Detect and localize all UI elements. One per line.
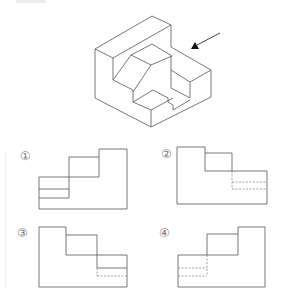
option-2-label[interactable]: ② bbox=[161, 148, 172, 160]
option-2-view[interactable] bbox=[177, 147, 267, 204]
option-1-label[interactable]: ① bbox=[20, 150, 31, 162]
option-3-label[interactable]: ③ bbox=[17, 227, 28, 239]
option-4-view[interactable] bbox=[178, 227, 265, 287]
drawing-canvas bbox=[0, 0, 288, 308]
option-3-view[interactable] bbox=[39, 227, 127, 287]
isometric-view bbox=[95, 16, 211, 127]
option-4-label[interactable]: ④ bbox=[159, 227, 170, 239]
viewing-direction-arrow-icon bbox=[191, 33, 220, 49]
option-1-view[interactable] bbox=[39, 149, 127, 209]
